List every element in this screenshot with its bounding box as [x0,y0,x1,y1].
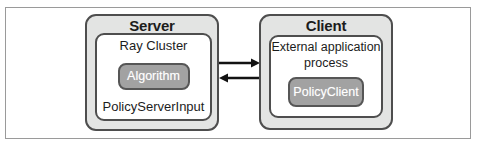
policy-client-node: PolicyClient [288,77,364,107]
client-group: Client External application process Poli… [259,14,393,130]
external-application-label: External application process [271,39,381,71]
arrow-server-to-client [219,59,260,68]
policy-server-input-label: PolicyServerInput [103,98,205,115]
algorithm-label: Algorithm [127,69,180,83]
ray-cluster-box: Ray Cluster Algorithm PolicyServerInput [95,33,212,121]
ray-cluster-label: Ray Cluster [120,37,188,54]
algorithm-node: Algorithm [118,63,190,90]
external-application-box: External application process PolicyClien… [269,35,383,118]
bidirectional-arrows [219,55,260,86]
client-title: Client [261,17,391,35]
policy-client-label: PolicyClient [293,85,358,99]
figure-canvas: Server Ray Cluster Algorithm PolicyServe… [0,0,477,148]
arrow-client-to-server [219,74,260,83]
server-group: Server Ray Cluster Algorithm PolicyServe… [85,14,219,131]
